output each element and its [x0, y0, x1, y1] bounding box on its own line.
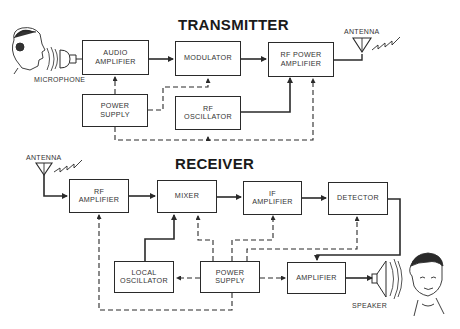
local-oscillator-block: LOCAL OSCILLATOR: [114, 261, 174, 293]
audio-amplifier-block: AUDIO AMPLIFIER: [82, 40, 149, 75]
receiver-title: RECEIVER: [175, 155, 254, 172]
mixer-block: MIXER: [157, 180, 217, 213]
receiver-power-supply-block: POWER SUPPLY: [200, 261, 260, 293]
receiver-antenna-label: ANTENNA: [26, 154, 62, 161]
person-headphones-icon: [12, 28, 45, 74]
microphone-label: MICROPHONE: [34, 76, 85, 83]
if-amplifier-block: IF AMPLIFIER: [243, 181, 302, 215]
transmitter-title: TRANSMITTER: [178, 16, 289, 33]
transmitter-antenna-label: ANTENNA: [344, 28, 380, 35]
speaker-label: SPEAKER: [352, 302, 387, 309]
detector-block: DETECTOR: [328, 182, 388, 215]
modulator-block: MODULATOR: [175, 41, 241, 76]
rf-oscillator-block: RF OSCILLATOR: [175, 96, 241, 130]
rf-power-amplifier-block: RF POWER AMPLIFIER: [268, 42, 334, 77]
rf-amplifier-block: RF AMPLIFIER: [69, 179, 129, 213]
transmitter-power-supply-block: POWER SUPPLY: [82, 94, 148, 127]
person-listening-icon: [410, 253, 444, 316]
amplifier-block: AMPLIFIER: [287, 262, 346, 294]
